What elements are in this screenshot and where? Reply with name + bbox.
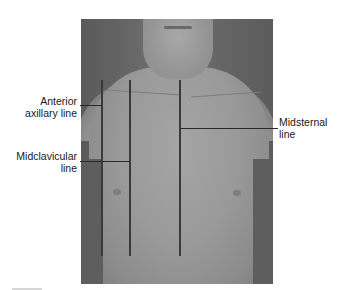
anterior-axillary-label-line1: Anterior xyxy=(25,95,77,107)
chest-photograph xyxy=(81,19,273,284)
midclavicular-leader xyxy=(80,161,130,162)
midsternal-label: Midsternal line xyxy=(279,116,327,140)
midsternal-label-line1: Midsternal xyxy=(279,116,327,128)
chin-mouth xyxy=(164,26,192,29)
anterior-axillary-line xyxy=(101,80,103,256)
midclavicular-label: Midclavicular line xyxy=(16,150,77,174)
left-arm-shadow xyxy=(81,159,103,284)
right-nipple xyxy=(233,190,241,196)
midsternal-leader xyxy=(180,128,278,129)
anterior-axillary-label: Anterior axillary line xyxy=(25,95,77,119)
anterior-axillary-label-line2: axillary line xyxy=(25,107,77,119)
midsternal-label-line2: line xyxy=(279,128,327,140)
left-nipple xyxy=(113,189,121,195)
right-arm-shadow xyxy=(253,159,273,284)
midclavicular-label-line1: Midclavicular xyxy=(16,150,77,162)
midsternal-line xyxy=(179,80,181,256)
midclavicular-line xyxy=(129,80,131,256)
anterior-axillary-leader xyxy=(80,105,102,106)
midclavicular-label-line2: line xyxy=(16,162,77,174)
